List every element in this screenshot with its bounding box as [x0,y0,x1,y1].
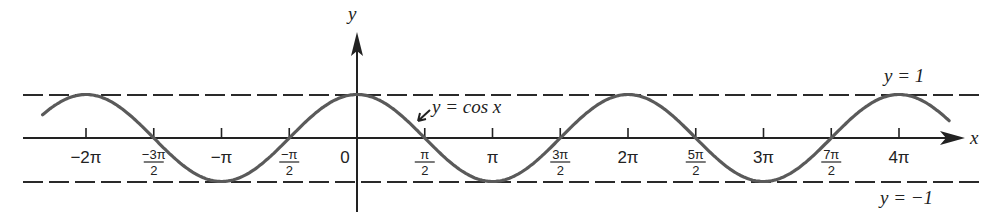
cosine-chart: −2π−3π2−π−π20π2π3π22π5π23π7π24π y x y = … [0,0,1003,219]
x-tick-label: π2 [415,147,435,178]
x-tick-label: −2π [70,148,101,167]
x-tick-label: −π [211,148,233,167]
x-tick-label: π [487,148,499,167]
x-tick-label: 3π2 [550,147,570,178]
svg-text:−3π: −3π [142,147,166,162]
curve-annotation: y = cos x [430,96,502,117]
svg-text:2: 2 [286,163,293,178]
upper-line-label: y = 1 [882,65,924,86]
x-tick-label: 4π [888,148,909,167]
x-tick-label: −π2 [279,147,299,178]
svg-text:2: 2 [150,163,157,178]
svg-text:2: 2 [557,163,564,178]
svg-text:2: 2 [692,163,699,178]
svg-text:5π: 5π [688,147,704,162]
lower-line-label-text: y = −1 [878,187,933,208]
x-tick-label: 0 [340,148,349,167]
svg-text:3π: 3π [552,147,568,162]
x-tick-label: −3π2 [142,147,166,178]
svg-text:7π: 7π [823,147,839,162]
svg-text:π: π [420,147,429,162]
svg-text:2: 2 [421,163,428,178]
x-tick-label: 5π2 [686,147,706,178]
svg-text:−π: −π [281,147,298,162]
svg-text:2: 2 [828,163,835,178]
upper-line-label-text: y = 1 [882,65,924,86]
y-axis-label: y [346,3,357,24]
annotation-arrow-icon [418,110,430,121]
x-axis-label: x [969,127,979,148]
x-tick-label: 3π [753,148,774,167]
x-tick-label: 7π2 [821,147,841,178]
lower-line-label: y = −1 [878,187,933,208]
x-tick-label: 2π [617,148,638,167]
x-axis-ticks [86,128,899,138]
